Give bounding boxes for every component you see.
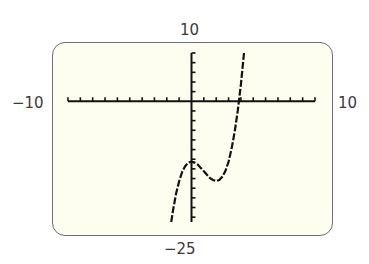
graph-plot	[0, 0, 369, 264]
curve-path	[171, 53, 244, 222]
axes	[68, 53, 315, 222]
function-curve	[171, 53, 244, 222]
